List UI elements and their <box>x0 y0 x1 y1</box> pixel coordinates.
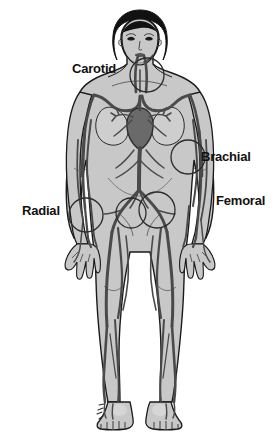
descending-aorta <box>139 148 140 190</box>
label-femoral: Femoral <box>216 194 265 207</box>
label-radial: Radial <box>22 204 60 217</box>
label-carotid: Carotid <box>72 62 116 75</box>
anatomy-diagram <box>0 0 280 444</box>
label-brachial: Brachial <box>201 150 251 163</box>
